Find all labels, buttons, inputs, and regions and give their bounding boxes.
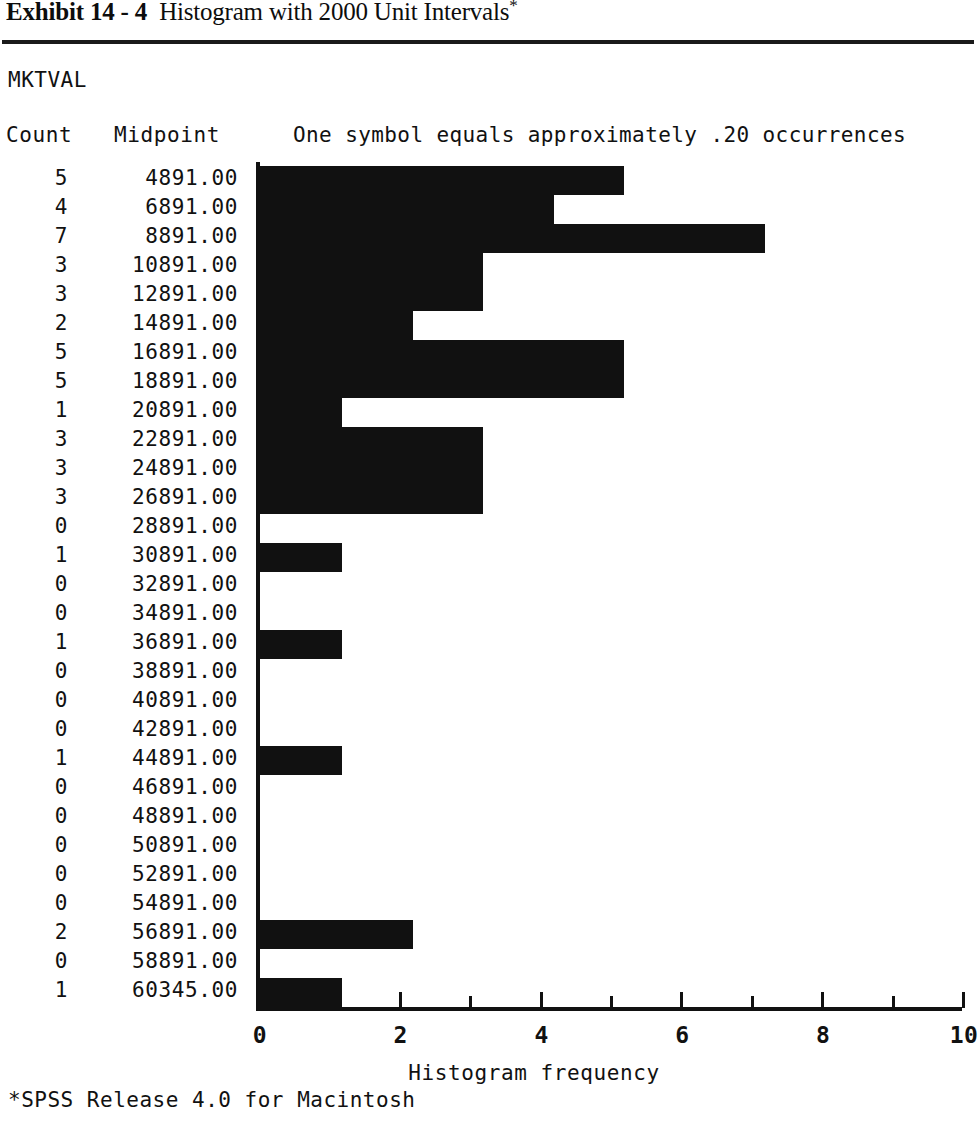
row-count: 5 bbox=[55, 369, 68, 393]
row-midpoint: 50891.00 bbox=[132, 833, 238, 857]
x-axis-tick bbox=[540, 992, 543, 1008]
x-axis-tick bbox=[328, 996, 331, 1008]
table-row: 040891.00 bbox=[0, 688, 250, 717]
table-row: 038891.00 bbox=[0, 659, 250, 688]
row-count: 0 bbox=[55, 775, 68, 799]
histogram-bar bbox=[260, 224, 765, 253]
row-midpoint: 14891.00 bbox=[132, 311, 238, 335]
row-count: 1 bbox=[55, 746, 68, 770]
table-row: 78891.00 bbox=[0, 224, 250, 253]
row-count: 3 bbox=[55, 282, 68, 306]
row-midpoint: 30891.00 bbox=[132, 543, 238, 567]
row-count: 1 bbox=[55, 630, 68, 654]
row-midpoint: 22891.00 bbox=[132, 427, 238, 451]
table-row: 322891.00 bbox=[0, 427, 250, 456]
row-count: 7 bbox=[55, 224, 68, 248]
histogram-bar bbox=[260, 369, 624, 398]
x-axis-tick bbox=[892, 996, 895, 1008]
variable-name-label: MKTVAL bbox=[8, 68, 87, 92]
exhibit-footnote-marker: * bbox=[509, 0, 517, 15]
column-header-count: Count bbox=[6, 123, 72, 147]
x-axis-line bbox=[256, 1007, 962, 1011]
row-count: 2 bbox=[55, 920, 68, 944]
table-row: 46891.00 bbox=[0, 195, 250, 224]
row-count: 0 bbox=[55, 659, 68, 683]
row-midpoint: 6891.00 bbox=[145, 195, 238, 219]
table-row: 324891.00 bbox=[0, 456, 250, 485]
table-row: 052891.00 bbox=[0, 862, 250, 891]
table-row: 516891.00 bbox=[0, 340, 250, 369]
histogram-bar bbox=[260, 311, 413, 340]
histogram-bar bbox=[260, 746, 342, 775]
histogram-bar bbox=[260, 630, 342, 659]
symbol-legend-text: One symbol equals approximately .20 occu… bbox=[293, 123, 906, 147]
row-label-column: 54891.0046891.0078891.00310891.00312891.… bbox=[0, 166, 258, 1007]
row-midpoint: 4891.00 bbox=[145, 166, 238, 190]
spss-report: MKTVAL Count Midpoint One symbol equals … bbox=[0, 48, 978, 1132]
row-midpoint: 38891.00 bbox=[132, 659, 238, 683]
row-midpoint: 46891.00 bbox=[132, 775, 238, 799]
exhibit-label: Exhibit bbox=[6, 0, 84, 25]
row-midpoint: 34891.00 bbox=[132, 601, 238, 625]
row-midpoint: 36891.00 bbox=[132, 630, 238, 654]
x-axis-tick bbox=[258, 992, 261, 1008]
table-row: 120891.00 bbox=[0, 398, 250, 427]
source-footnote: *SPSS Release 4.0 for Macintosh bbox=[8, 1088, 415, 1112]
x-axis-tick bbox=[610, 996, 613, 1008]
row-midpoint: 32891.00 bbox=[132, 572, 238, 596]
row-count: 5 bbox=[55, 340, 68, 364]
row-midpoint: 26891.00 bbox=[132, 485, 238, 509]
row-midpoint: 54891.00 bbox=[132, 891, 238, 915]
x-axis-tick bbox=[962, 992, 965, 1008]
table-row: 130891.00 bbox=[0, 543, 250, 572]
row-midpoint: 10891.00 bbox=[132, 253, 238, 277]
x-axis-tick bbox=[751, 996, 754, 1008]
exhibit-header: Exhibit 14 - 4 Histogram with 2000 Unit … bbox=[0, 0, 978, 48]
histogram-bar bbox=[260, 340, 624, 369]
row-count: 2 bbox=[55, 311, 68, 335]
row-midpoint: 28891.00 bbox=[132, 514, 238, 538]
table-row: 042891.00 bbox=[0, 717, 250, 746]
row-count: 3 bbox=[55, 456, 68, 480]
histogram-bar bbox=[260, 166, 624, 195]
table-row: 054891.00 bbox=[0, 891, 250, 920]
table-row: 54891.00 bbox=[0, 166, 250, 195]
x-axis-tick bbox=[469, 996, 472, 1008]
row-midpoint: 58891.00 bbox=[132, 949, 238, 973]
row-midpoint: 60345.00 bbox=[132, 978, 238, 1002]
histogram-bar bbox=[260, 398, 342, 427]
x-axis-tick-label: 8 bbox=[816, 1022, 830, 1048]
histogram-bar bbox=[260, 920, 413, 949]
histogram-bar bbox=[260, 485, 483, 514]
bar-series bbox=[260, 162, 970, 1010]
row-midpoint: 8891.00 bbox=[145, 224, 238, 248]
exhibit-title-text: Histogram with 2000 Unit Intervals bbox=[159, 0, 509, 25]
table-row: 312891.00 bbox=[0, 282, 250, 311]
table-row: 034891.00 bbox=[0, 601, 250, 630]
x-axis-title: Histogram frequency bbox=[0, 1061, 978, 1085]
table-row: 310891.00 bbox=[0, 253, 250, 282]
row-midpoint: 16891.00 bbox=[132, 340, 238, 364]
table-row: 326891.00 bbox=[0, 485, 250, 514]
header-divider bbox=[2, 40, 974, 44]
table-row: 160345.00 bbox=[0, 978, 250, 1007]
histogram-bar bbox=[260, 253, 483, 282]
table-row: 518891.00 bbox=[0, 369, 250, 398]
x-axis-tick bbox=[821, 992, 824, 1008]
x-axis-tick-label: 10 bbox=[950, 1022, 978, 1048]
table-row: 028891.00 bbox=[0, 514, 250, 543]
row-count: 3 bbox=[55, 485, 68, 509]
row-count: 0 bbox=[55, 572, 68, 596]
row-midpoint: 12891.00 bbox=[132, 282, 238, 306]
table-row: 046891.00 bbox=[0, 775, 250, 804]
table-row: 144891.00 bbox=[0, 746, 250, 775]
row-count: 5 bbox=[55, 166, 68, 190]
table-row: 032891.00 bbox=[0, 572, 250, 601]
page-title: Exhibit 14 - 4 Histogram with 2000 Unit … bbox=[6, 0, 518, 26]
row-count: 3 bbox=[55, 253, 68, 277]
row-count: 1 bbox=[55, 543, 68, 567]
row-count: 0 bbox=[55, 688, 68, 712]
histogram-bar bbox=[260, 456, 483, 485]
column-headers: Count Midpoint One symbol equals approxi… bbox=[0, 123, 978, 153]
exhibit-number: 14 - 4 bbox=[90, 0, 147, 25]
